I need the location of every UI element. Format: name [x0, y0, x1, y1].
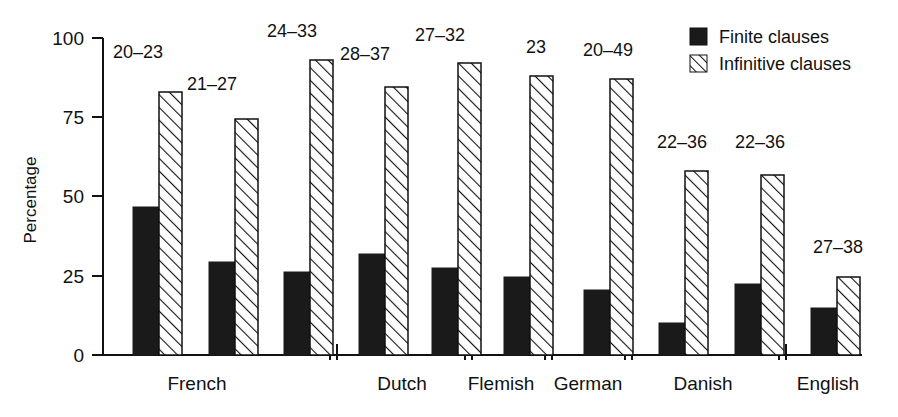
value-label-10: 27–38	[813, 237, 863, 257]
bar-infinitive-8	[685, 171, 708, 355]
y-tick-label-75: 75	[63, 107, 84, 128]
bar-finite-8	[659, 323, 685, 355]
legend-label-finite: Finite clauses	[719, 27, 829, 47]
bar-finite-5	[432, 268, 458, 355]
value-label-6: 23	[526, 37, 546, 57]
y-tick-label-25: 25	[63, 266, 84, 287]
legend-swatch-finite	[690, 28, 707, 45]
value-label-1: 20–23	[113, 42, 163, 62]
bar-infinitive-5	[458, 63, 481, 355]
bar-finite-4	[359, 254, 385, 355]
value-label-9: 22–36	[735, 132, 785, 152]
bar-finite-10	[811, 308, 837, 355]
bar-finite-2	[209, 262, 235, 355]
y-tick-label-50: 50	[63, 186, 84, 207]
bar-infinitive-10	[837, 277, 860, 355]
bar-finite-1	[133, 207, 159, 355]
group-label-french: French	[167, 373, 226, 394]
group-label-flemish: Flemish	[468, 373, 535, 394]
value-label-8: 22–36	[657, 132, 707, 152]
group-label-dutch: Dutch	[377, 373, 427, 394]
value-label-4: 28–37	[340, 44, 390, 64]
value-label-7: 20–49	[583, 40, 633, 60]
group-label-english: English	[797, 373, 859, 394]
bar-infinitive-7	[610, 79, 633, 355]
legend-label-infinitive: Infinitive clauses	[719, 54, 851, 74]
y-axis-title: Percentage	[21, 157, 40, 244]
bar-infinitive-4	[385, 87, 408, 355]
bar-finite-3	[284, 272, 310, 355]
bar-infinitive-6	[530, 76, 553, 355]
bar-finite-9	[735, 284, 761, 355]
bar-finite-6	[504, 277, 530, 355]
bar-infinitive-9	[761, 175, 784, 355]
y-tick-label-100: 100	[52, 28, 84, 49]
group-label-danish: Danish	[673, 373, 732, 394]
grouped-bar-chart: 100 75 50 25 0 Percentage	[0, 0, 898, 417]
bar-infinitive-2	[235, 119, 258, 355]
y-tick-label-0: 0	[73, 345, 84, 366]
group-label-german: German	[554, 373, 623, 394]
value-label-5: 27–32	[415, 25, 465, 45]
legend-swatch-infinitive	[690, 55, 707, 72]
bar-finite-7	[584, 290, 610, 355]
value-label-3: 24–33	[267, 21, 317, 41]
bar-infinitive-1	[159, 92, 182, 355]
bar-infinitive-3	[310, 60, 333, 355]
value-label-2: 21–27	[187, 74, 237, 94]
chart-container: 100 75 50 25 0 Percentage	[0, 0, 898, 417]
